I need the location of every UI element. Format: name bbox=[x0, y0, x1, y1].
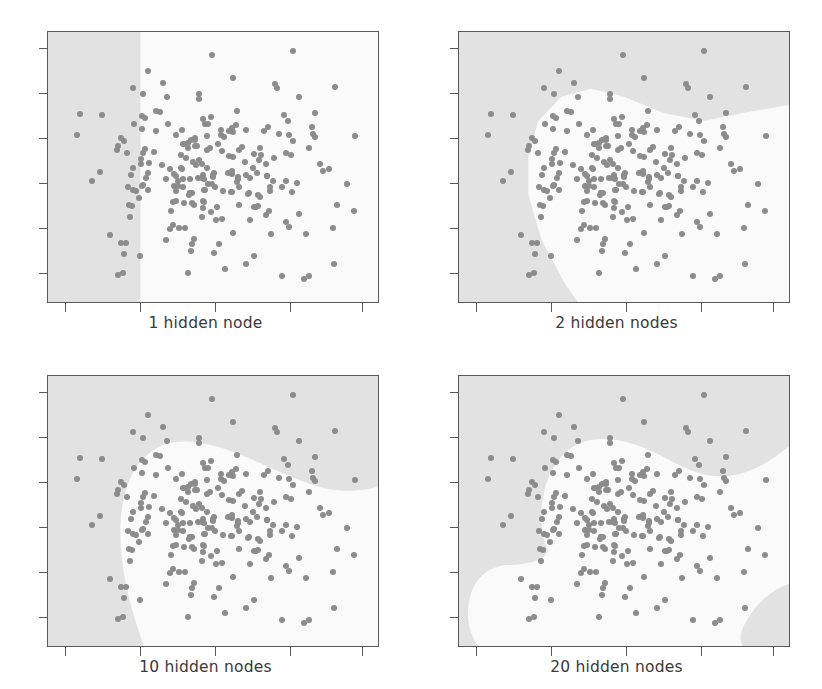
x-tick bbox=[773, 647, 774, 656]
panel-1-caption: 1 hidden node bbox=[0, 314, 411, 332]
y-tick bbox=[450, 273, 458, 274]
plot-area-panel-3 bbox=[47, 375, 379, 647]
panel-1-hidden-node: 1 hidden node bbox=[0, 0, 411, 344]
x-tick bbox=[701, 303, 702, 312]
x-tick bbox=[773, 303, 774, 312]
x-tick bbox=[476, 303, 477, 312]
y-tick bbox=[450, 482, 458, 483]
y-tick bbox=[450, 572, 458, 573]
y-tick bbox=[450, 527, 458, 528]
y-tick bbox=[450, 437, 458, 438]
panel-2-hidden-nodes: 2 hidden nodes bbox=[411, 0, 822, 344]
y-tick bbox=[39, 617, 47, 618]
y-tick bbox=[450, 392, 458, 393]
panel-3-caption: 10 hidden nodes bbox=[0, 658, 411, 676]
decision-region-panel-1 bbox=[48, 32, 378, 302]
y-tick bbox=[39, 93, 47, 94]
y-tick bbox=[39, 482, 47, 483]
y-tick bbox=[39, 437, 47, 438]
decision-region-panel-4 bbox=[459, 376, 789, 646]
y-tick bbox=[39, 183, 47, 184]
y-tick bbox=[450, 48, 458, 49]
panel-20-hidden-nodes: 20 hidden nodes bbox=[411, 344, 822, 688]
x-tick bbox=[290, 303, 291, 312]
x-tick bbox=[551, 303, 552, 312]
x-tick bbox=[626, 647, 627, 656]
x-tick bbox=[65, 303, 66, 312]
y-tick bbox=[450, 183, 458, 184]
x-tick bbox=[701, 647, 702, 656]
x-tick bbox=[362, 647, 363, 656]
x-tick bbox=[215, 303, 216, 312]
y-tick bbox=[39, 48, 47, 49]
x-tick bbox=[362, 303, 363, 312]
x-tick bbox=[290, 647, 291, 656]
y-tick bbox=[39, 138, 47, 139]
y-tick bbox=[39, 228, 47, 229]
y-tick bbox=[39, 572, 47, 573]
y-tick bbox=[39, 527, 47, 528]
figure-root: 1 hidden node 2 hidden nodes bbox=[0, 0, 822, 689]
y-tick bbox=[450, 617, 458, 618]
y-tick bbox=[450, 138, 458, 139]
y-tick bbox=[450, 228, 458, 229]
x-tick bbox=[65, 647, 66, 656]
decision-region-panel-2 bbox=[459, 32, 789, 302]
x-tick bbox=[551, 647, 552, 656]
y-tick bbox=[39, 273, 47, 274]
panel-4-caption: 20 hidden nodes bbox=[411, 658, 822, 676]
y-tick bbox=[39, 392, 47, 393]
plot-area-panel-1 bbox=[47, 31, 379, 303]
x-tick bbox=[626, 303, 627, 312]
plot-area-panel-4 bbox=[458, 375, 790, 647]
panel-10-hidden-nodes: 10 hidden nodes bbox=[0, 344, 411, 688]
y-tick bbox=[450, 93, 458, 94]
plot-area-panel-2 bbox=[458, 31, 790, 303]
x-tick bbox=[140, 647, 141, 656]
decision-region-panel-3 bbox=[48, 376, 378, 646]
x-tick bbox=[476, 647, 477, 656]
panel-2-caption: 2 hidden nodes bbox=[411, 314, 822, 332]
x-tick bbox=[140, 303, 141, 312]
x-tick bbox=[215, 647, 216, 656]
